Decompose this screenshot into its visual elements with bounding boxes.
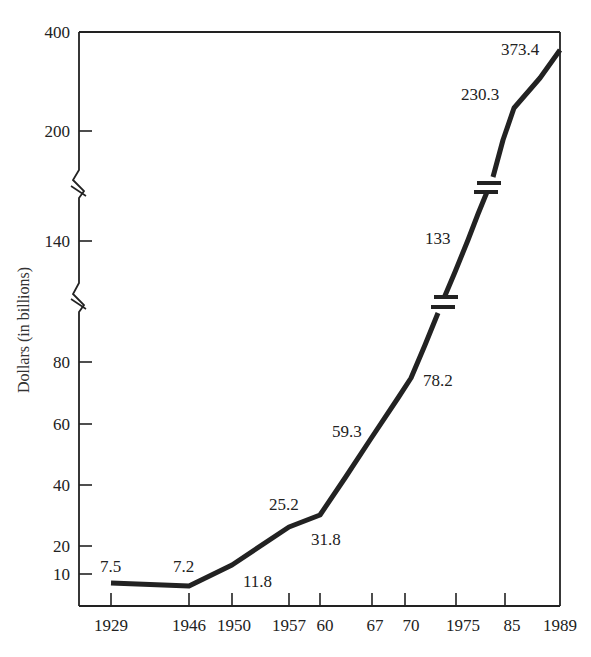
y-tick-label: 80 [53, 353, 70, 372]
y-axis-title: Dollars (in billions) [15, 267, 33, 393]
x-tick-label: 1989 [543, 616, 577, 635]
x-tick-label: 85 [504, 616, 521, 635]
data-label: 78.2 [423, 371, 453, 390]
data-label: 11.8 [243, 572, 272, 591]
line-break-icon [474, 183, 501, 192]
x-ticks [111, 593, 505, 606]
line-chart: 400 200 140 80 60 40 20 10 Dollars (in b… [0, 0, 591, 657]
y-tick-label: 40 [53, 476, 70, 495]
y-tick-label: 400 [45, 23, 71, 42]
data-line [111, 50, 560, 586]
x-tick-label: 1975 [446, 616, 480, 635]
data-label: 373.4 [501, 40, 540, 59]
data-label: 7.5 [100, 557, 121, 576]
x-tick-label: 1950 [217, 616, 251, 635]
data-label: 133 [425, 229, 451, 248]
y-tick-label: 10 [53, 565, 70, 584]
y-tick-label: 20 [53, 537, 70, 556]
data-label: 31.8 [311, 530, 341, 549]
x-tick-label: 1957 [272, 616, 307, 635]
x-tick-label: 67 [367, 616, 385, 635]
data-label: 25.2 [269, 495, 299, 514]
x-tick-label: 1929 [94, 616, 128, 635]
data-label: 59.3 [332, 422, 362, 441]
y-ticks [79, 131, 92, 574]
data-label: 7.2 [173, 557, 194, 576]
line-break-icon [431, 297, 458, 307]
x-tick-label: 1946 [172, 616, 206, 635]
y-tick-label: 140 [45, 232, 71, 251]
y-tick-label: 200 [45, 122, 71, 141]
x-tick-label: 70 [403, 616, 420, 635]
x-tick-label: 60 [317, 616, 334, 635]
y-axis [73, 32, 84, 606]
data-label: 230.3 [461, 85, 499, 104]
y-tick-label: 60 [53, 415, 70, 434]
